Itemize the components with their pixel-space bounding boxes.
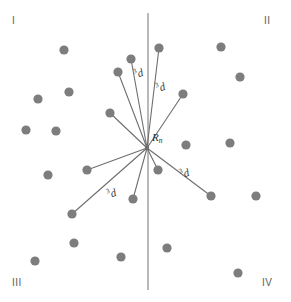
lattice-dot xyxy=(116,252,125,261)
lattice-dot xyxy=(181,140,190,149)
lattice-dot xyxy=(225,138,234,147)
diagram-canvas xyxy=(0,0,291,302)
spoke-line-dot-3 xyxy=(118,72,147,148)
quadrant-label-iv: IV xyxy=(262,278,272,288)
lattice-dot xyxy=(178,89,187,98)
quadrant-label-ii: II xyxy=(264,16,271,26)
lattice-dot xyxy=(67,209,76,218)
lattice-dot xyxy=(105,108,114,117)
lattice-dot xyxy=(233,268,242,277)
lattice-diagram: I II III IV 3d3d3d3d Rn xyxy=(0,0,291,302)
lattice-dot xyxy=(154,43,163,52)
lattice-dot xyxy=(82,165,91,174)
origin-label-base: R xyxy=(152,131,159,143)
quadrant-label-i: I xyxy=(12,16,15,26)
lattice-dot xyxy=(235,72,244,81)
origin-label-subscript: n xyxy=(159,136,163,145)
lattice-dot xyxy=(21,125,30,134)
spoke-line-dot-21 xyxy=(133,148,147,199)
origin-label: Rn xyxy=(152,132,162,143)
lattice-dot xyxy=(69,238,78,247)
spoke-line-dot-16 xyxy=(87,148,147,170)
lattice-dot xyxy=(113,67,122,76)
lattice-dot xyxy=(216,42,225,51)
lattice-dot xyxy=(59,45,68,54)
lattice-dot xyxy=(251,191,260,200)
origin-point xyxy=(145,146,149,150)
lattice-dot xyxy=(153,165,162,174)
lattice-dot xyxy=(33,94,42,103)
quadrant-label-iii: III xyxy=(12,278,22,288)
spoke-line-dot-17 xyxy=(72,148,147,214)
lattice-dot xyxy=(51,126,60,135)
lattice-dot xyxy=(128,194,137,203)
lattice-dot xyxy=(206,191,215,200)
lattice-dot xyxy=(30,256,39,265)
lattice-dot xyxy=(162,243,171,252)
lattice-dot xyxy=(64,87,73,96)
lattice-dot xyxy=(43,170,52,179)
lattice-dot xyxy=(126,54,135,63)
